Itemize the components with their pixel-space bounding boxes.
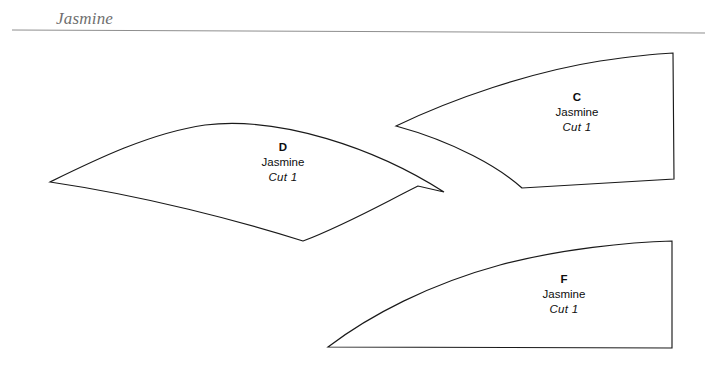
piece-d-cut-instruction: Cut 1 [262,170,305,185]
piece-f-letter: F [543,272,586,287]
header-rule-line [12,30,705,33]
piece-d-name: Jasmine [262,155,305,170]
piece-c-name: Jasmine [556,105,599,120]
pattern-piece-c-label: C Jasmine Cut 1 [556,90,599,135]
piece-f-name: Jasmine [543,287,586,302]
pattern-drawing-canvas [0,0,711,370]
pattern-piece-f-label: F Jasmine Cut 1 [543,272,586,317]
pattern-piece-f-outline[interactable] [328,241,672,348]
piece-f-cut-instruction: Cut 1 [543,302,586,317]
pattern-piece-c-outline[interactable] [396,53,674,188]
piece-c-cut-instruction: Cut 1 [556,120,599,135]
pattern-sheet: Jasmine D Jasmine Cut 1 C Jasmine Cut 1 … [0,0,711,370]
piece-d-letter: D [262,140,305,155]
piece-c-letter: C [556,90,599,105]
pattern-piece-d-label: D Jasmine Cut 1 [262,140,305,185]
pattern-piece-d-outline[interactable] [50,123,444,241]
sheet-header-title: Jasmine [56,9,113,29]
